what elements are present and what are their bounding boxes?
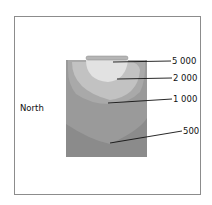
- contour-label-1000: 1 000: [173, 95, 197, 104]
- contour-label-500: 500: [183, 127, 199, 136]
- contour-label-5000: 5 000: [172, 57, 196, 66]
- contour-label-2000: 2 000: [173, 74, 197, 83]
- light-fixture-icon: [86, 56, 128, 60]
- north-label: North: [20, 104, 44, 113]
